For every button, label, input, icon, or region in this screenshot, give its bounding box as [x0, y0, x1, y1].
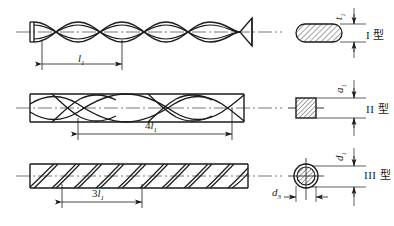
row-2-section-group	[288, 80, 366, 136]
row-1-rod-group	[16, 18, 282, 70]
row-3-rod-group	[16, 164, 282, 208]
left-end-row-1	[30, 22, 34, 42]
technical-drawing-figure: l1 t1 I 型 4l1 a1 II 型 3l1 d1 d3 III 型	[0, 0, 394, 226]
dimension-label-3l1: 3l1	[92, 187, 104, 202]
square-section-fill	[296, 98, 316, 118]
dimension-label-l1: l1	[78, 52, 85, 67]
circle-center-crosshair	[288, 158, 324, 200]
dimension-label-t1: t1	[332, 13, 347, 20]
type-label-ii: II 型	[366, 100, 389, 116]
type-label-i: I 型	[366, 26, 385, 42]
row-3-section-group	[284, 148, 366, 206]
drawing-canvas	[0, 0, 394, 226]
dimension-label-d1: d1	[333, 152, 348, 161]
type-label-iii: III 型	[364, 166, 391, 182]
oval-section-fill	[296, 24, 342, 42]
dimension-label-4l1: 4l1	[145, 119, 157, 134]
dimension-label-a1: a1	[333, 84, 348, 93]
dimension-label-d3: d3	[272, 186, 281, 201]
